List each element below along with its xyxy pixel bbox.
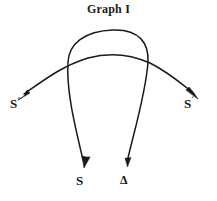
node-label-delta-text: Δ	[120, 173, 128, 187]
flat-arc-curve	[24, 55, 192, 94]
node-label-s-text: S	[76, 173, 83, 188]
arrowhead-down-left	[82, 156, 90, 168]
node-label-s: S	[76, 174, 83, 187]
node-label-delta: Δ	[120, 174, 128, 186]
tall-arch-curve	[68, 30, 148, 160]
graph-figure: Graph I S° S´ S Δ	[0, 0, 217, 201]
prime-icon: ´	[191, 95, 194, 105]
node-label-s-degree: S°	[10, 96, 21, 110]
arrowhead-down-right	[125, 158, 131, 168]
node-label-s-prime: S´	[184, 96, 194, 110]
degree-icon: °	[17, 95, 21, 105]
